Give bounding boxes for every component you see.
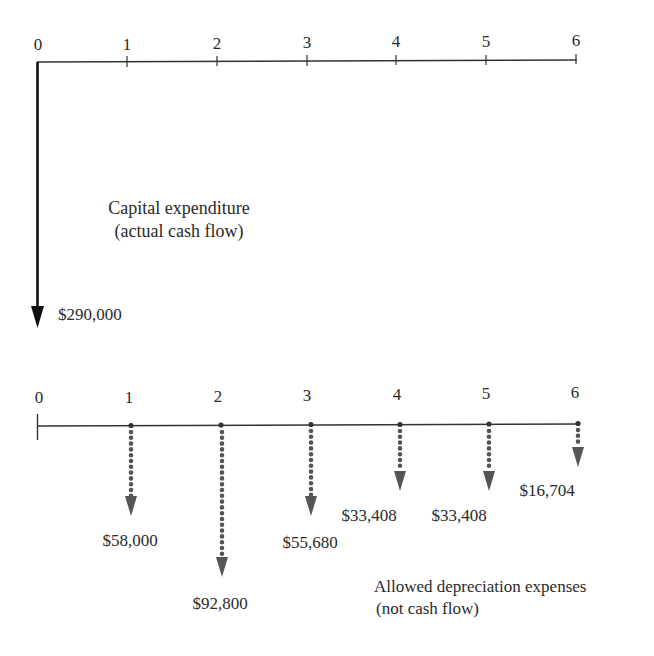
bottom-period-label: 1 [125, 388, 134, 407]
arrowhead-icon [572, 447, 584, 467]
bottom-period-label: 5 [482, 384, 491, 403]
top-period-label: 3 [303, 33, 312, 52]
bottom-period-label: 0 [35, 388, 44, 407]
top-caption-line1: Capital expenditure [108, 198, 249, 218]
arrowhead-icon [216, 557, 228, 577]
arrowhead-icon [31, 306, 44, 328]
depreciation-arrow-6 [572, 421, 584, 467]
depreciation-amount-1: $58,000 [102, 531, 157, 550]
capital-expenditure-amount: $290,000 [58, 305, 122, 324]
top-period-label: 4 [392, 32, 401, 51]
bottom-period-label: 3 [303, 386, 312, 405]
depreciation-arrow-4 [394, 422, 406, 491]
top-period-label: 5 [482, 32, 491, 51]
depreciation-amount-4: $33,408 [341, 506, 396, 525]
top-period-label: 1 [123, 35, 132, 54]
arrowhead-icon [305, 496, 317, 516]
top-caption-line2: (actual cash flow) [115, 221, 244, 242]
depreciation-amount-2: $92,800 [192, 594, 247, 613]
bottom-caption-line1: Allowed depreciation expenses [374, 577, 586, 596]
capital-expenditure-arrow [31, 62, 44, 328]
bottom-caption-line2: (not cash flow) [376, 599, 479, 618]
bottom-period-label: 2 [214, 387, 223, 406]
top-timeline: 0 1 2 3 4 5 6 $290,000 Capital expenditu… [31, 31, 580, 328]
bottom-timeline: 0 1 2 3 4 5 6 [35, 383, 587, 618]
bottom-period-label: 6 [571, 383, 580, 402]
top-period-label: 2 [213, 34, 222, 53]
depreciation-arrow-1 [125, 423, 137, 516]
bottom-axis-line [37, 424, 578, 426]
top-period-label: 0 [34, 35, 43, 54]
arrowhead-icon [483, 471, 495, 491]
depreciation-amount-3: $55,680 [282, 533, 337, 552]
depreciation-arrow-2 [216, 422, 228, 577]
arrowhead-icon [125, 496, 137, 516]
depreciation-arrow-3 [305, 422, 317, 516]
depreciation-arrow-5 [483, 421, 495, 491]
depreciation-amount-5: $33,408 [431, 506, 486, 525]
cash-flow-diagram: 0 1 2 3 4 5 6 $290,000 Capital expenditu… [0, 0, 654, 656]
depreciation-amount-6: $16,704 [519, 481, 575, 500]
arrowhead-icon [394, 471, 406, 491]
top-period-label: 6 [572, 31, 581, 50]
bottom-period-label: 4 [393, 385, 402, 404]
